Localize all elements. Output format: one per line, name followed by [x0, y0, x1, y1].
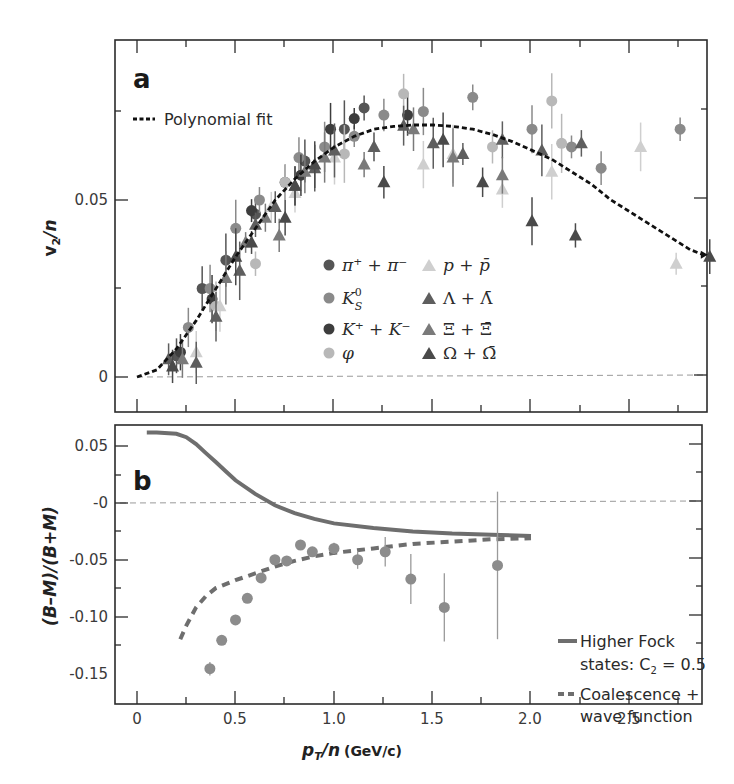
data-point-circle	[281, 555, 292, 566]
figure: 0.05 0 v2/n a Polynomial fit π⁺ + π⁻ K0S…	[0, 0, 734, 784]
data-point-triangle	[670, 257, 683, 269]
panel-b-data-points	[204, 492, 503, 676]
data-point-circle	[205, 283, 216, 294]
data-point-circle	[378, 110, 389, 121]
data-point-circle	[359, 102, 370, 113]
data-point-triangle	[358, 158, 371, 170]
data-point-circle	[295, 539, 306, 550]
data-point-circle	[307, 546, 318, 557]
panel-a-yticks-left	[115, 111, 128, 377]
panel-a-ylabel: v2/n	[40, 219, 63, 256]
data-point-circle	[216, 635, 227, 646]
data-point-circle	[405, 574, 416, 585]
panel-a-ytick-0: 0	[98, 368, 108, 386]
data-point-circle	[242, 593, 253, 604]
panel-b-ylabel: (B–M)/(B+M)	[40, 506, 60, 626]
panel-b-ytick-neg0.05: -0.05	[69, 551, 108, 569]
data-point-circle	[675, 124, 686, 135]
data-point-triangle	[526, 214, 539, 226]
legend-marker-k0s	[324, 293, 335, 304]
panel-a-ytick-0.05: 0.05	[75, 191, 108, 209]
data-point-triangle	[575, 136, 588, 148]
legend-fock-line2: states: C2 = 0.5	[580, 655, 706, 676]
legend-coal-line2: wave function	[580, 707, 693, 726]
panel-b-ytick-0.05: 0.05	[75, 437, 108, 455]
panel-a-xticks-bottom	[137, 399, 678, 412]
data-point-circle	[492, 560, 503, 571]
legend-label-k0s: K0S	[341, 286, 363, 313]
legend-fock-line1: Higher Fock	[580, 632, 676, 651]
legend-marker-kaon	[324, 324, 335, 335]
legend-marker-xi	[422, 323, 436, 335]
data-point-circle	[596, 163, 607, 174]
xtick-1.0: 1.0	[322, 710, 346, 728]
data-point-triangle	[273, 228, 286, 240]
panel-a-yticks-right	[694, 109, 707, 375]
legend-label-pion: π⁺ + π⁻	[341, 255, 407, 275]
fit-legend-label: Polynomial fit	[164, 110, 272, 129]
data-point-triangle	[377, 175, 390, 187]
data-point-triangle	[279, 211, 292, 223]
data-point-circle	[487, 141, 498, 152]
data-point-triangle	[545, 165, 558, 177]
data-point-circle	[398, 88, 409, 99]
data-point-circle	[380, 546, 391, 557]
panel-b-ytick-neg0.15: -0.15	[69, 665, 108, 683]
data-point-circle	[352, 554, 363, 565]
panel-b: 0.05 -0 -0.05 -0.10 -0.15 0 0.5 1.0 1.5 …	[40, 425, 706, 728]
data-point-triangle	[190, 356, 203, 368]
xtick-1.5: 1.5	[420, 710, 444, 728]
legend-marker-phi	[324, 348, 335, 359]
higher-fock-curve	[147, 433, 531, 536]
legend-label-omega: Ω + Ω̄	[443, 343, 496, 363]
data-point-circle	[269, 554, 280, 565]
panel-a: 0.05 0 v2/n a Polynomial fit π⁺ + π⁻ K0S…	[40, 40, 716, 412]
data-point-circle	[254, 195, 265, 206]
panel-a-legend: π⁺ + π⁻ K0S K⁺ + K⁻ φ p + p̄ Λ + Λ̄ Ξ + …	[324, 255, 497, 363]
data-point-circle	[566, 141, 577, 152]
legend-marker-proton	[422, 259, 436, 271]
data-point-triangle	[496, 168, 509, 180]
legend-label-kaon: K⁺ + K⁻	[341, 319, 410, 339]
data-point-triangle	[437, 133, 450, 145]
legend-coal-line1: Coalescence +	[580, 685, 699, 704]
panel-a-letter: a	[133, 64, 151, 94]
legend-marker-pion	[324, 260, 335, 271]
data-point-circle	[230, 614, 241, 625]
data-point-triangle	[417, 158, 430, 170]
legend-label-xi: Ξ + Ξ̄	[443, 319, 492, 339]
xtick-0: 0	[132, 710, 142, 728]
data-point-circle	[204, 663, 215, 674]
data-point-circle	[250, 258, 261, 269]
panel-a-frame	[115, 40, 707, 412]
data-point-circle	[467, 92, 478, 103]
panel-b-ytick-0: -0	[93, 494, 108, 512]
data-point-triangle	[427, 136, 440, 148]
panel-b-yticks-right	[689, 444, 702, 643]
data-point-circle	[556, 138, 567, 149]
legend-marker-lambda	[422, 292, 436, 304]
data-point-triangle	[476, 175, 489, 187]
panel-b-zero-line	[120, 501, 702, 503]
xtick-2.0: 2.0	[518, 710, 542, 728]
data-point-circle	[339, 148, 350, 159]
panel-b-letter: b	[133, 466, 152, 496]
xtick-0.5: 0.5	[223, 710, 247, 728]
data-point-circle	[418, 106, 429, 117]
data-point-circle	[546, 95, 557, 106]
legend-label-proton: p + p̄	[443, 255, 490, 275]
data-point-triangle	[368, 140, 381, 152]
panel-b-legend: Higher Fock states: C2 = 0.5 Coalescence…	[558, 632, 706, 726]
legend-marker-omega	[422, 347, 436, 359]
panel-a-xticks-top	[137, 40, 678, 53]
data-point-triangle	[634, 140, 647, 152]
x-axis-title: pT/n(GeV/c)	[301, 740, 402, 763]
polynomial-fit-curve	[137, 125, 704, 377]
data-point-triangle	[569, 228, 582, 240]
data-point-circle	[439, 602, 450, 613]
data-point-circle	[256, 572, 267, 583]
data-point-triangle	[456, 147, 469, 159]
legend-label-lambda: Λ + Λ̄	[442, 288, 493, 308]
panel-b-ytick-neg0.10: -0.10	[69, 608, 108, 626]
panel-b-yticks-left	[115, 446, 128, 645]
